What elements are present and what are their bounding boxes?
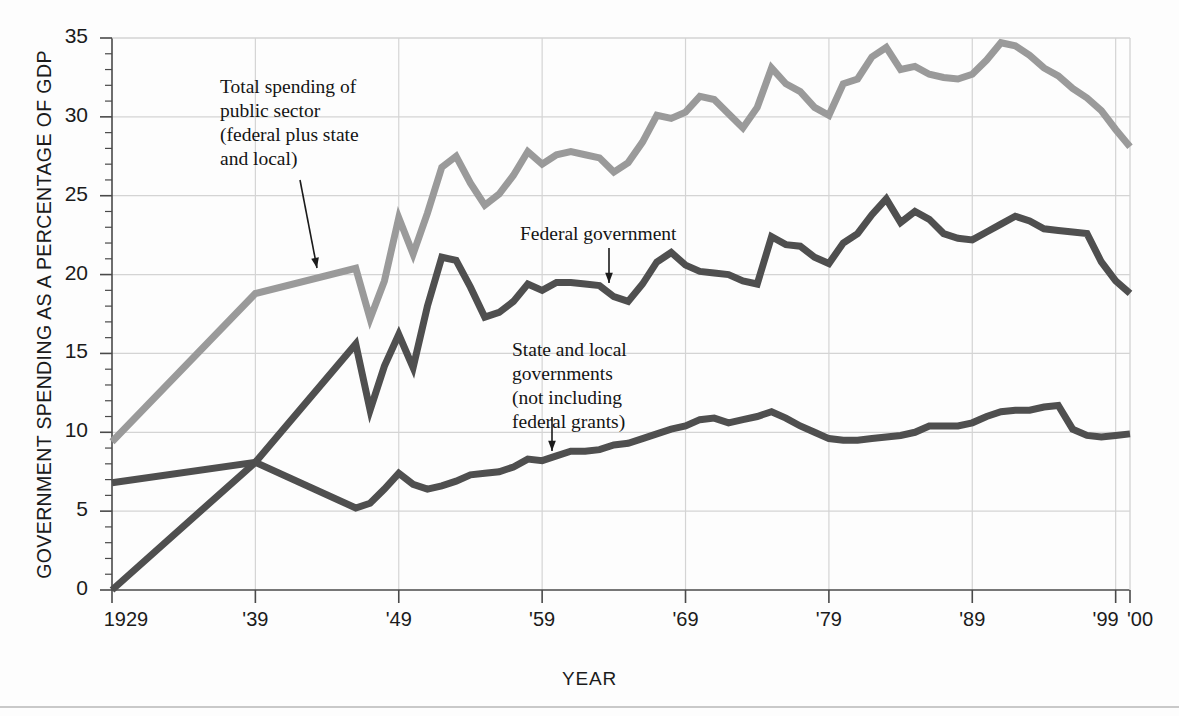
- footer-rule: [0, 706, 1179, 708]
- x-tick-label: '49: [354, 608, 444, 631]
- y-tick-label: 30: [42, 103, 88, 127]
- x-tick-label: '00: [1095, 608, 1179, 631]
- x-tick-label: 1929: [81, 608, 171, 631]
- annotation-state-and-local: State and local governments (not includi…: [512, 338, 732, 434]
- y-tick-label: 20: [42, 261, 88, 285]
- x-tick-label: '39: [210, 608, 300, 631]
- leader-total: [300, 180, 317, 268]
- y-tick-label: 10: [42, 418, 88, 442]
- x-tick-label: '89: [927, 608, 1017, 631]
- chart-figure: GOVERNMENT SPENDING AS A PERCENTAGE OF G…: [0, 0, 1179, 716]
- x-tick-label: '79: [784, 608, 874, 631]
- annotation-total-spending: Total spending of public sector (federal…: [220, 75, 430, 171]
- x-tick-label: '59: [497, 608, 587, 631]
- y-tick-label: 25: [42, 182, 88, 206]
- annotation-federal-government: Federal government: [520, 222, 780, 246]
- y-tick-label: 35: [42, 24, 88, 48]
- x-axis-title: YEAR: [0, 668, 1179, 690]
- y-tick-label: 5: [42, 497, 88, 521]
- x-tick-label: '69: [641, 608, 731, 631]
- y-tick-label: 15: [42, 339, 88, 363]
- y-tick-label: 0: [42, 576, 88, 600]
